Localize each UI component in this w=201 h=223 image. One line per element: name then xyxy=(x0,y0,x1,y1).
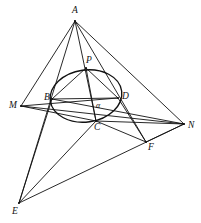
point-label-M: M xyxy=(8,100,18,110)
point-M xyxy=(20,105,22,107)
point-P xyxy=(85,67,87,69)
point-label-A: A xyxy=(71,5,78,15)
segment-F-N xyxy=(146,124,184,142)
point-label-F: F xyxy=(147,142,154,152)
segment-B-E xyxy=(19,99,52,203)
point-N xyxy=(183,123,185,125)
point-label-E: E xyxy=(11,206,18,216)
point-A xyxy=(74,20,76,22)
point-B xyxy=(51,98,53,100)
segment-layer xyxy=(19,21,184,203)
point-D xyxy=(117,97,119,99)
segment-C-E xyxy=(19,121,96,203)
point-label-P: P xyxy=(85,55,92,65)
angle-label-0: α xyxy=(96,101,101,110)
segment-M-C xyxy=(21,106,96,121)
point-label-N: N xyxy=(187,120,195,130)
segment-C-F xyxy=(96,121,146,142)
geometry-figure: APBDCMNEFα xyxy=(0,0,201,223)
segment-A-F xyxy=(75,21,146,142)
point-label-B: B xyxy=(44,92,50,102)
point-label-C: C xyxy=(94,122,101,132)
segment-D-F xyxy=(118,98,146,142)
point-label-D: D xyxy=(121,91,129,101)
segment-P-B xyxy=(52,68,86,99)
figure-canvas: APBDCMNEFα xyxy=(0,0,201,223)
point-E xyxy=(18,202,20,204)
point-F xyxy=(145,141,147,143)
